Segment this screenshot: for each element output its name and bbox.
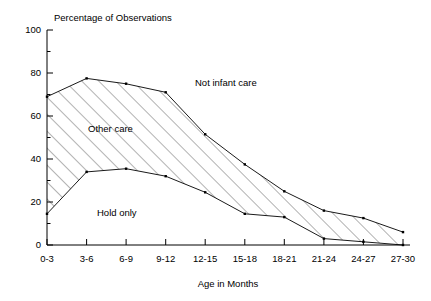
x-tick-label: 3-6 (80, 253, 94, 264)
y-tick-label: 0 (36, 239, 41, 250)
data-point (283, 216, 285, 218)
data-point (362, 217, 364, 219)
data-point (125, 168, 127, 170)
y-tick-label: 80 (30, 67, 41, 78)
chart-container: 020406080100 0-33-66-99-1212-1515-1818-2… (0, 0, 431, 301)
data-point (244, 213, 246, 215)
y-axis-title: Percentage of Observations (54, 12, 172, 23)
y-tick-label: 60 (30, 110, 41, 121)
data-point (362, 241, 364, 243)
data-point (165, 91, 167, 93)
data-point (283, 190, 285, 192)
x-tick-label: 21-24 (312, 253, 336, 264)
data-point (165, 175, 167, 177)
data-point (323, 209, 325, 211)
x-axis-tick-labels: 0-33-66-99-1212-1515-1818-2121-2424-2727… (40, 253, 415, 264)
x-tick-label: 24-27 (351, 253, 375, 264)
series-annotation: Not infant care (195, 77, 257, 88)
y-tick-label: 20 (30, 196, 41, 207)
y-axis-tick-labels: 020406080100 (25, 24, 41, 250)
data-point (204, 133, 206, 135)
data-point (85, 171, 87, 173)
x-tick-label: 15-18 (233, 253, 257, 264)
data-point (323, 237, 325, 239)
data-point (402, 231, 404, 233)
x-tick-label: 27-30 (391, 253, 415, 264)
chart-svg: 020406080100 0-33-66-99-1212-1515-1818-2… (0, 0, 431, 301)
hatched-band-other-care (47, 78, 403, 245)
data-point (244, 163, 246, 165)
series-annotation: Hold only (97, 207, 137, 218)
x-tick-label: 9-12 (156, 253, 175, 264)
data-point (204, 191, 206, 193)
series-annotation: Other care (88, 123, 133, 134)
x-tick-label: 12-15 (193, 253, 217, 264)
x-axis-title: Age in Months (198, 278, 259, 289)
data-point (46, 213, 48, 215)
x-tick-label: 6-9 (119, 253, 133, 264)
x-tick-label: 0-3 (40, 253, 54, 264)
data-point (85, 77, 87, 79)
x-tick-label: 18-21 (272, 253, 296, 264)
data-point (125, 83, 127, 85)
y-tick-label: 40 (30, 153, 41, 164)
data-point (402, 244, 404, 246)
y-tick-label: 100 (25, 24, 41, 35)
data-point (46, 96, 48, 98)
